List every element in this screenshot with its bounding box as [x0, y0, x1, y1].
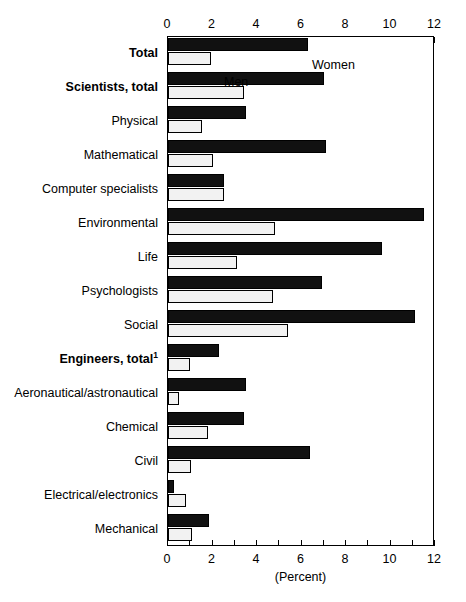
category-label: Engineers, total1 [0, 342, 160, 376]
bar-men [168, 154, 213, 167]
bar-men [168, 256, 237, 269]
axis-tick-label: 2 [208, 551, 215, 567]
bar-women [168, 344, 219, 357]
axis-tick [212, 540, 213, 546]
category-label: Total [0, 36, 160, 70]
bar-women [168, 242, 382, 255]
axis-tick-label: 4 [253, 551, 260, 567]
bar-group [168, 478, 434, 512]
footnote-marker: 1 [153, 350, 158, 360]
bar-men [168, 290, 273, 303]
bar-group [168, 206, 434, 240]
category-label: Mechanical [0, 512, 160, 546]
bar-women [168, 480, 174, 493]
bar-men [168, 188, 224, 201]
category-label: Psychologists [0, 274, 160, 308]
category-label: Computer specialists [0, 172, 160, 206]
chart-row: Total [0, 36, 466, 70]
bar-women [168, 310, 415, 323]
x-axis-bottom-tick-labels: 024681012 [167, 551, 434, 567]
bar-women [168, 514, 209, 527]
bar-women [168, 174, 224, 187]
axis-tick-label: 6 [297, 551, 304, 567]
bar-group [168, 240, 434, 274]
bar-chart-figure: 024681012 TotalScientists, totalPhysical… [0, 0, 466, 602]
chart-row: Physical [0, 104, 466, 138]
chart-rows: TotalScientists, totalPhysicalMathematic… [0, 36, 466, 546]
bar-women [168, 446, 310, 459]
axis-tick [345, 540, 346, 546]
category-label: Environmental [0, 206, 160, 240]
x-axis-unit-caption: (Percent) [167, 570, 434, 584]
bar-men [168, 222, 275, 235]
axis-tick [390, 540, 391, 546]
category-label: Aeronautical/astronautical [0, 376, 160, 410]
chart-row: Environmental [0, 206, 466, 240]
axis-tick-label: 12 [427, 16, 441, 32]
bar-women [168, 412, 244, 425]
bar-men [168, 460, 191, 473]
chart-row: Life [0, 240, 466, 274]
axis-tick-label: 10 [383, 16, 397, 32]
axis-tick [189, 540, 190, 546]
category-label: Civil [0, 444, 160, 478]
axis-tick-label: 0 [164, 16, 171, 32]
axis-tick [234, 540, 235, 546]
axis-tick-label: 2 [208, 16, 215, 32]
axis-tick [434, 540, 435, 546]
category-label: Scientists, total [0, 70, 160, 104]
bar-group [168, 444, 434, 478]
chart-row: Social [0, 308, 466, 342]
bar-men [168, 324, 288, 337]
axis-tick [278, 540, 279, 546]
axis-tick-label: 10 [383, 551, 397, 567]
bar-group [168, 104, 434, 138]
axis-tick [367, 540, 368, 546]
axis-tick-label: 4 [253, 16, 260, 32]
bar-women [168, 378, 246, 391]
bar-women [168, 276, 322, 289]
bar-group [168, 376, 434, 410]
chart-row: Aeronautical/astronautical [0, 376, 466, 410]
x-axis-bottom-ticks [167, 540, 434, 546]
bar-group [168, 342, 434, 376]
bar-group [168, 138, 434, 172]
bar-women [168, 208, 424, 221]
bar-group [168, 274, 434, 308]
bar-women [168, 106, 246, 119]
chart-row: Psychologists [0, 274, 466, 308]
x-axis-top-tick-labels: 024681012 [167, 16, 434, 32]
chart-row: Mathematical [0, 138, 466, 172]
category-label: Mathematical [0, 138, 160, 172]
axis-tick-label: 8 [342, 551, 349, 567]
bar-women [168, 38, 308, 51]
category-label: Physical [0, 104, 160, 138]
bar-group [168, 172, 434, 206]
chart-row: Civil [0, 444, 466, 478]
axis-tick-label: 6 [297, 16, 304, 32]
chart-row: Electrical/electronics [0, 478, 466, 512]
bar-men [168, 358, 190, 371]
bar-men [168, 120, 202, 133]
bar-women [168, 140, 326, 153]
bar-group [168, 36, 434, 70]
axis-tick [301, 540, 302, 546]
axis-tick-label: 8 [342, 16, 349, 32]
axis-tick [323, 540, 324, 546]
bar-men [168, 52, 211, 65]
chart-row: Engineers, total1 [0, 342, 466, 376]
axis-tick [256, 540, 257, 546]
axis-tick-label: 12 [427, 551, 441, 567]
axis-tick [412, 540, 413, 546]
chart-row: Chemical [0, 410, 466, 444]
bar-men [168, 426, 208, 439]
legend-label-men: Men [224, 75, 248, 89]
axis-tick-label: 0 [164, 551, 171, 567]
bar-group [168, 70, 434, 104]
chart-row: Computer specialists [0, 172, 466, 206]
bar-group [168, 410, 434, 444]
category-label: Life [0, 240, 160, 274]
category-label: Electrical/electronics [0, 478, 160, 512]
bar-men [168, 392, 179, 405]
axis-tick [167, 540, 168, 546]
